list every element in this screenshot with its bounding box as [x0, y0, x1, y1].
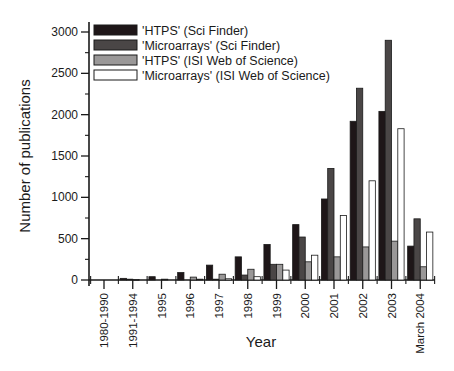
legend-label: 'HTPS' (ISI Web of Science) — [142, 54, 298, 68]
y-tick-label: 0 — [71, 273, 78, 287]
bar — [149, 277, 155, 280]
x-tick-label: 1991-1994 — [127, 292, 139, 348]
bar — [334, 257, 340, 280]
bar — [270, 264, 276, 280]
y-axis: 050010001500200025003000 — [51, 22, 89, 287]
bar — [277, 264, 283, 280]
legend: 'HTPS' (Sci Finder)'Microarrays' (Sci Fi… — [94, 24, 330, 83]
bar — [219, 274, 225, 280]
bar — [293, 225, 299, 280]
bar — [264, 244, 270, 280]
chart-canvas: 050010001500200025003000 1980-19901991-1… — [0, 0, 454, 371]
bar — [312, 255, 318, 280]
x-tick-label: 1999 — [271, 293, 283, 319]
bar — [350, 121, 356, 280]
legend-label: 'HTPS' (Sci Finder) — [142, 24, 248, 38]
bar — [162, 279, 168, 280]
bar — [126, 279, 132, 280]
y-tick-label: 1500 — [51, 149, 78, 163]
y-axis-label: Number of publications — [16, 79, 33, 232]
x-tick-label: 2000 — [299, 293, 311, 319]
bar — [197, 279, 203, 280]
bar — [392, 241, 398, 280]
bar — [305, 262, 311, 280]
x-tick-label: 1980-1990 — [98, 293, 110, 348]
bar — [178, 273, 184, 280]
x-tick-label: 1998 — [242, 293, 254, 319]
legend-swatch — [94, 40, 137, 50]
bar — [420, 267, 426, 280]
bar — [398, 129, 404, 280]
bar — [414, 219, 420, 280]
legend-swatch — [94, 25, 137, 35]
x-tick-label: 1997 — [213, 293, 225, 319]
x-tick-label: 1995 — [156, 293, 168, 319]
bar — [321, 199, 327, 280]
bar — [299, 237, 305, 280]
y-tick-label: 500 — [58, 232, 78, 246]
bar — [408, 246, 414, 280]
bar — [133, 280, 139, 281]
bar — [120, 278, 126, 280]
y-tick-label: 1000 — [51, 190, 78, 204]
legend-swatch — [94, 55, 137, 65]
x-tick-label: 2003 — [386, 293, 398, 319]
x-tick-label: 2002 — [357, 293, 369, 319]
bar — [379, 111, 385, 280]
y-tick-label: 3000 — [51, 25, 78, 39]
bar — [427, 232, 433, 280]
x-tick-label: 1996 — [184, 293, 196, 319]
bar — [241, 275, 247, 280]
y-tick-label: 2500 — [51, 66, 78, 80]
bar — [356, 88, 362, 280]
legend-label: 'Microarrays' (Sci Finder) — [142, 39, 280, 53]
bar — [363, 247, 369, 280]
bar — [283, 270, 289, 280]
bar — [190, 277, 196, 280]
bar — [340, 216, 346, 280]
y-tick-label: 2000 — [51, 108, 78, 122]
legend-label: 'Microarrays' (ISI Web of Science) — [142, 69, 330, 83]
bar — [254, 277, 260, 280]
bar — [206, 265, 212, 280]
bar — [385, 40, 391, 280]
bar — [248, 269, 254, 280]
bar — [225, 279, 231, 280]
publications-bar-chart: 050010001500200025003000 1980-19901991-1… — [0, 0, 454, 371]
bar — [369, 181, 375, 280]
bar — [213, 279, 219, 280]
x-axis-label: Year — [246, 333, 276, 350]
bar — [235, 257, 241, 280]
x-tick-label: 2001 — [328, 293, 340, 319]
legend-swatch — [94, 70, 137, 80]
bar — [328, 168, 334, 280]
x-tick-label: March 2004 — [414, 292, 426, 353]
